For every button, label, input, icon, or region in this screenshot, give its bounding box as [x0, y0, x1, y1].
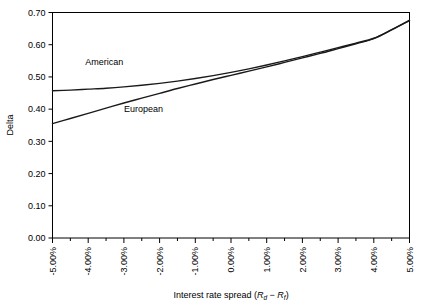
x-tick-label: -3.00% — [119, 247, 129, 276]
x-tick-label: 2.00% — [298, 247, 308, 273]
chart-figure: 0.000.100.200.300.400.500.600.70 -5.00%-… — [0, 0, 423, 307]
x-axis-title: Interest rate spread (Rd − Rf) — [173, 290, 288, 301]
y-tick-label: 0.60 — [28, 40, 46, 50]
series-label-american: American — [85, 57, 123, 67]
x-tick-label: -1.00% — [191, 247, 201, 276]
x-tick-label: -2.00% — [155, 247, 165, 276]
x-tick-label: 5.00% — [405, 247, 415, 273]
x-tick-label: -5.00% — [48, 247, 58, 276]
delta-vs-interest-rate-spread-chart: 0.000.100.200.300.400.500.600.70 -5.00%-… — [0, 0, 423, 307]
x-tick-label: 1.00% — [262, 247, 272, 273]
y-tick-label: 0.00 — [28, 233, 46, 243]
y-tick-label: 0.50 — [28, 72, 46, 82]
x-tick-label: 4.00% — [369, 247, 379, 273]
y-tick-label: 0.40 — [28, 104, 46, 114]
series-label-european: European — [124, 104, 163, 114]
y-tick-label: 0.70 — [28, 8, 46, 18]
y-tick-label: 0.10 — [28, 201, 46, 211]
x-tick-label: 0.00% — [226, 247, 236, 273]
x-tick-label: -4.00% — [83, 247, 93, 276]
y-tick-label: 0.30 — [28, 137, 46, 147]
y-tick-label: 0.20 — [28, 169, 46, 179]
chart-background — [0, 0, 423, 307]
x-tick-label: 3.00% — [333, 247, 343, 273]
y-axis-title: Delta — [5, 114, 15, 135]
